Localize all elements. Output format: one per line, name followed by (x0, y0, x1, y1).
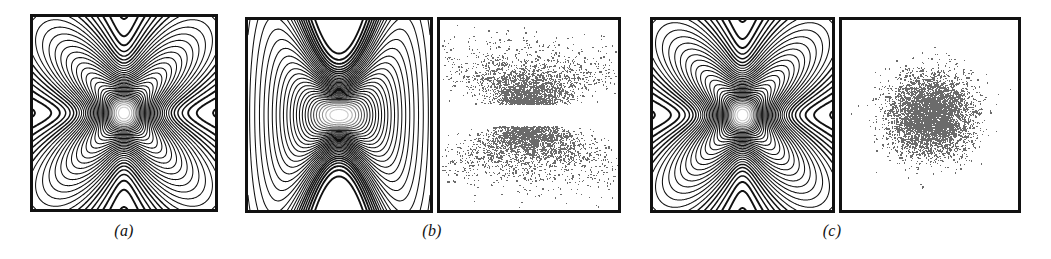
contour-plot (33, 17, 215, 209)
contour-line (268, 48, 410, 181)
panel-a-contour (30, 14, 218, 212)
contour-line (308, 20, 369, 210)
contour-line (297, 20, 381, 210)
contour-line (330, 109, 348, 120)
contour-line (43, 27, 206, 199)
scatter-marker-group (851, 47, 1011, 189)
contour-line (36, 20, 213, 207)
contour-line (656, 23, 830, 208)
contour-line (81, 68, 166, 158)
contour-line (305, 96, 373, 134)
scatter-plot (842, 20, 1018, 210)
contour-line (55, 40, 193, 185)
panel-b-scatter (437, 17, 621, 213)
contour-line (653, 20, 832, 210)
caption-c: (c) (823, 222, 841, 240)
scatter-points (442, 25, 618, 208)
panel-c-contour (650, 17, 835, 213)
figure-container: (a)(b)(c) (0, 0, 1051, 259)
contour-line (662, 30, 822, 200)
caption-a: (a) (114, 222, 133, 240)
contour-line (33, 17, 215, 209)
contour-line (733, 105, 752, 125)
scatter-points (851, 47, 1011, 189)
contour-plot (248, 20, 430, 210)
contour-line (669, 37, 816, 193)
scatter-marker-group (442, 25, 618, 208)
contour-plot (653, 20, 832, 210)
contour-line (701, 70, 785, 159)
contour-line (322, 105, 355, 125)
contour-line (105, 93, 143, 134)
contour-line (730, 102, 755, 129)
contour-line (49, 34, 199, 192)
contour-line (114, 103, 133, 123)
contour-line (248, 20, 430, 210)
panel-b-contour (245, 17, 433, 213)
scatter-plot (440, 20, 618, 210)
caption-b: (b) (422, 222, 441, 240)
contour-line (737, 109, 748, 120)
contour-line (308, 98, 370, 133)
contour-line (111, 99, 137, 126)
contour-line (724, 95, 762, 135)
contour-line (316, 102, 361, 128)
contour-line (119, 107, 130, 119)
contour-line (675, 43, 810, 187)
panel-c-scatter (839, 17, 1021, 213)
